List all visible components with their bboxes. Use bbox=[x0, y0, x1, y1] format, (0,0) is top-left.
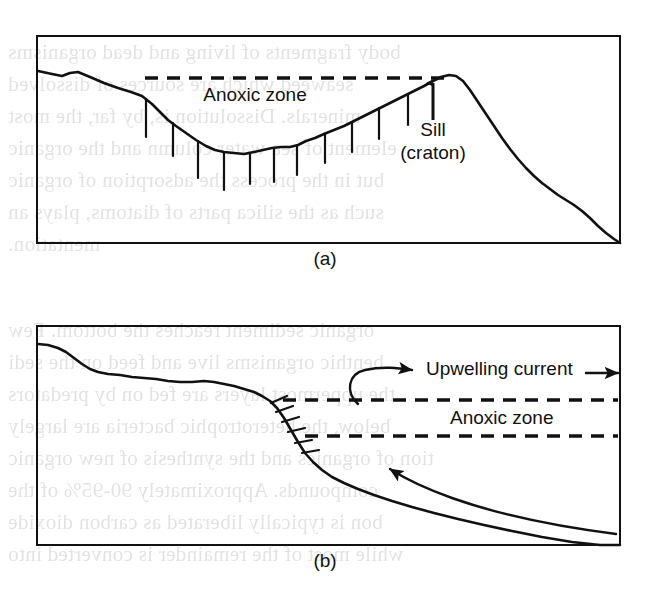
panel-b: Upwelling current Anoxic zone bbox=[37, 326, 620, 545]
deep-water-inflow-arrow bbox=[390, 469, 616, 534]
panel-a-seafloor-profile bbox=[38, 71, 620, 243]
panel-b-sediment-hatch-ticks bbox=[271, 396, 319, 453]
sill-label-line1: Sill bbox=[420, 119, 445, 140]
panel-a-caption: (a) bbox=[285, 248, 365, 270]
anoxic-zone-label-a: Anoxic zone bbox=[203, 84, 307, 105]
figure-root: body fragments of living and dead organi… bbox=[0, 0, 651, 591]
anoxic-zone-label-b: Anoxic zone bbox=[450, 407, 554, 428]
sill-label-line2: (craton) bbox=[400, 142, 465, 163]
panel-a-frame bbox=[37, 36, 620, 243]
panel-b-caption: (b) bbox=[285, 550, 365, 572]
panel-a-sediment-hatch-ticks bbox=[146, 94, 408, 190]
anoxic-basin-diagram: Anoxic zone Sill (craton) Upwelling curr… bbox=[0, 0, 651, 591]
panel-a: Anoxic zone Sill (craton) bbox=[37, 36, 620, 243]
upwelling-current-label: Upwelling current bbox=[426, 358, 574, 379]
